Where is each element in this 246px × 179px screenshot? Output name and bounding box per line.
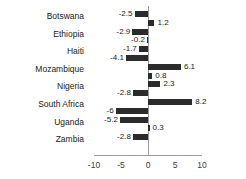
bar-value-label: -5.2 — [104, 116, 118, 124]
bar-value-label: -2.8 — [117, 89, 131, 97]
bar — [147, 37, 148, 43]
bar-value-label: 0.8 — [155, 72, 166, 80]
bar-value-label: -2.9 — [117, 28, 131, 36]
bar-value-label: -2.8 — [117, 133, 131, 141]
bar — [148, 64, 181, 70]
bar-value-label: 0.3 — [153, 124, 164, 132]
bar — [133, 134, 148, 140]
bar-value-label: -6 — [106, 107, 113, 115]
bar — [135, 11, 149, 17]
x-tick-label: 0 — [146, 160, 151, 170]
bar-value-label: -4.1 — [110, 54, 124, 62]
x-tick-label: -5 — [117, 160, 125, 170]
bar — [120, 117, 148, 123]
x-tick-label: -10 — [88, 160, 100, 170]
plot-area: -2.51.2-2.9-0.2-1.7-4.16.10.82.3-2.88.2-… — [0, 0, 246, 155]
bar-value-label: 2.3 — [163, 80, 174, 88]
bar-value-label: -1.7 — [123, 45, 137, 53]
x-tick-label: 10 — [197, 160, 206, 170]
x-axis-line — [94, 155, 202, 156]
bar-value-label: 1.2 — [157, 19, 168, 27]
bar-value-label: 6.1 — [184, 63, 195, 71]
bar — [133, 90, 148, 96]
bar-value-label: -0.2 — [131, 36, 145, 44]
bar — [132, 29, 148, 35]
bar-value-label: -2.5 — [119, 10, 133, 18]
bar-value-label: 8.2 — [195, 98, 206, 106]
bar — [148, 125, 150, 131]
bar — [148, 73, 152, 79]
x-axis: -10-50510 — [0, 155, 246, 179]
bar — [139, 46, 148, 52]
bar — [148, 20, 154, 26]
x-tick-label: 5 — [173, 160, 178, 170]
bar — [126, 55, 148, 61]
bar — [148, 81, 160, 87]
bar — [148, 99, 192, 105]
bar — [116, 108, 148, 114]
diverging-bar-chart: BotswanaEthiopiaHaitiMozambiqueNigeriaSo… — [0, 0, 246, 179]
